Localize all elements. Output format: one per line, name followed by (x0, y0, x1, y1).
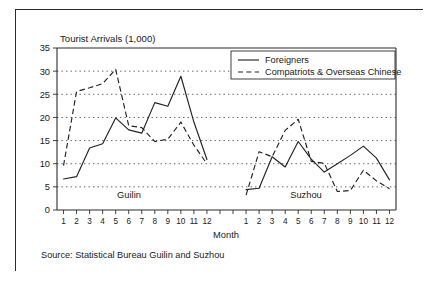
x-tick-label: 10 (359, 217, 369, 226)
x-tick-label: 1 (61, 217, 66, 226)
y-tick-label: 35 (40, 43, 50, 53)
x-axis-title: Month (213, 230, 239, 240)
y-tick-label: 15 (40, 136, 50, 146)
x-tick-label: 1 (244, 217, 249, 226)
y-tick-label: 0 (45, 205, 50, 215)
x-tick-label: 2 (74, 217, 79, 226)
x-tick-label: 7 (322, 217, 327, 226)
legend: Foreigners Compatriots & Overseas Chines… (231, 51, 401, 79)
y-tick-label: 30 (40, 67, 50, 77)
x-tick-label: 3 (87, 217, 92, 226)
x-tick-label: 6 (126, 217, 131, 226)
y-tick-label: 25 (40, 90, 50, 100)
x-tick-label: 4 (283, 217, 288, 226)
panel-label-guilin: Guilin (117, 190, 141, 200)
x-tick-label: 10 (176, 217, 186, 226)
panel-label-suzhou: Suzhou (290, 190, 322, 200)
x-tick-label: 9 (166, 217, 171, 226)
line-chart: Tourist Arrivals (1,000) 05101520253035 … (16, 10, 424, 272)
x-tick-label: 5 (113, 217, 118, 226)
x-tick-label: 11 (372, 217, 381, 226)
legend-label-compatriots: Compatriots & Overseas Chinese (265, 67, 401, 77)
legend-label-foreigners: Foreigners (265, 55, 309, 65)
x-tick-label: 4 (100, 217, 105, 226)
x-tick-label: 2 (257, 217, 262, 226)
x-tick-label: 11 (190, 217, 199, 226)
chart-title: Tourist Arrivals (1,000) (60, 33, 155, 44)
x-tick-label: 3 (270, 217, 275, 226)
x-tick-label: 8 (335, 217, 340, 226)
source-note: Source: Statistical Bureau Guilin and Su… (41, 250, 224, 260)
chart-figure: Tourist Arrivals (1,000) 05101520253035 … (15, 9, 423, 271)
x-tick-label: 7 (139, 217, 144, 226)
x-tick-label: 9 (348, 217, 353, 226)
y-tick-label: 5 (45, 182, 50, 192)
x-tick-label: 12 (385, 217, 395, 226)
y-tick-label: 20 (40, 113, 50, 123)
x-tick-label: 5 (296, 217, 301, 226)
x-tick-label: 6 (309, 217, 314, 226)
x-tick-label: 8 (153, 217, 158, 226)
y-tick-label: 10 (40, 159, 50, 169)
x-tick-label: 12 (202, 217, 212, 226)
